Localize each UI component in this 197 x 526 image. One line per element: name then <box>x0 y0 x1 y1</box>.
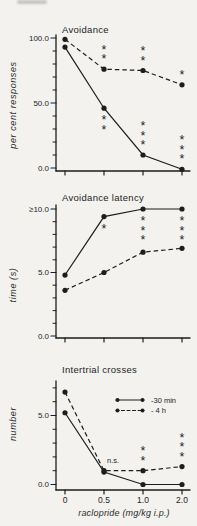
data-point <box>101 214 106 219</box>
legend-dot <box>116 398 120 402</box>
y-tick-label: ≥10.0 <box>29 205 50 214</box>
y-tick-label: 50.0 <box>33 99 49 108</box>
data-point <box>140 250 145 255</box>
figure: 0.050.0100.0*************0.05.0≥10.0****… <box>0 0 197 526</box>
data-point <box>179 464 184 469</box>
data-point <box>62 389 67 394</box>
data-point <box>140 68 145 73</box>
data-point <box>62 37 67 42</box>
series-line-solid <box>65 47 182 169</box>
significance-marker: * <box>102 43 107 57</box>
data-point <box>179 82 184 87</box>
data-point <box>179 482 184 487</box>
y-tick-label: 0.0 <box>38 332 50 341</box>
plot2-title: Avoidance latency <box>62 192 144 203</box>
significance-marker: * <box>180 431 185 445</box>
x-tick-label: 2.0 <box>176 495 188 505</box>
x-axis-label: raclopride (mg/kg i.p.) <box>78 508 170 518</box>
significance-marker: * <box>141 444 146 458</box>
series-line-dashed <box>65 248 182 290</box>
y-tick-label: 0.0 <box>38 480 50 489</box>
ns-label: n.s. <box>107 456 119 465</box>
significance-marker: * <box>180 133 185 147</box>
plot3-y-axis-label: number <box>8 407 18 441</box>
series-line-dashed <box>65 39 182 85</box>
x-tick-label: 1.0 <box>137 495 149 505</box>
plot2-y-axis-label: time (s) <box>8 268 18 303</box>
data-point <box>101 270 106 275</box>
legend-dot <box>141 409 145 413</box>
significance-marker: * <box>141 44 146 58</box>
plot1-y-axis-label: per cent responses <box>8 61 18 148</box>
chart-canvas: 0.050.0100.0*************0.05.0≥10.0****… <box>0 0 197 526</box>
data-point <box>140 468 145 473</box>
data-point <box>179 246 184 251</box>
y-tick-label: 0.0 <box>38 164 50 173</box>
data-point <box>179 206 184 211</box>
plot1-title: Avoidance <box>62 24 109 35</box>
data-point <box>140 482 145 487</box>
significance-marker: * <box>141 233 146 247</box>
data-point <box>140 152 145 157</box>
legend-dot <box>116 409 120 413</box>
data-point <box>140 206 145 211</box>
legend-label: -30 min <box>151 396 176 405</box>
significance-marker: * <box>102 222 107 236</box>
data-point <box>62 272 67 277</box>
data-point <box>179 167 184 172</box>
data-point <box>101 67 106 72</box>
data-point <box>101 106 106 111</box>
legend-dot <box>141 398 145 402</box>
plot3-title: Intertrial crosses <box>62 364 137 375</box>
data-point <box>62 45 67 50</box>
x-tick-label: 0 <box>63 495 68 505</box>
data-point <box>62 410 67 415</box>
x-tick-label: 0.5 <box>98 495 110 505</box>
significance-marker: * <box>102 123 107 137</box>
significance-marker: * <box>180 68 185 82</box>
significance-marker: * <box>141 119 146 133</box>
y-tick-label: 5.0 <box>38 268 50 277</box>
y-tick-label: 100.0 <box>29 34 50 43</box>
y-tick-label: 5.0 <box>38 411 50 420</box>
series-line-solid <box>65 209 182 275</box>
legend-label: - 4 h <box>151 406 166 415</box>
data-point <box>101 468 106 473</box>
data-point <box>62 288 67 293</box>
significance-marker: * <box>180 233 185 247</box>
series-line-solid <box>65 413 182 485</box>
